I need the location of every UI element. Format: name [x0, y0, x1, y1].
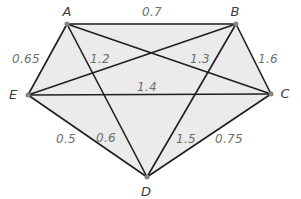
vertex-dot-A: [65, 22, 70, 27]
edge-weight-C-E: 1.4: [137, 80, 157, 94]
edge-weight-C-D: 0.75: [215, 132, 243, 146]
vertex-dot-D: [145, 175, 150, 180]
vertex-dot-E: [26, 93, 31, 98]
graph-canvas: 0.70.651.30.61.21.61.51.40.750.5ABCDE: [0, 0, 301, 199]
edge-weight-B-E: 1.2: [90, 52, 110, 66]
vertex-label-B: B: [231, 4, 240, 19]
edge-weight-A-C: 1.3: [190, 52, 210, 66]
vertex-dot-C: [269, 92, 274, 97]
edge-C-E: [28, 94, 271, 95]
edge-weight-B-D: 1.5: [176, 132, 196, 146]
edge-weight-D-E: 0.5: [56, 132, 76, 146]
edge-weight-A-B: 0.7: [142, 5, 162, 19]
edge-weight-B-C: 1.6: [258, 52, 278, 66]
vertex-dot-B: [234, 22, 239, 27]
pentagon-region-fill: [28, 24, 271, 177]
vertex-label-A: A: [62, 4, 72, 19]
vertex-label-E: E: [9, 87, 18, 102]
edge-weight-A-D: 0.6: [96, 131, 116, 145]
vertex-label-D: D: [141, 184, 151, 199]
vertex-label-C: C: [280, 86, 290, 101]
weighted-graph-figure: 0.70.651.30.61.21.61.51.40.750.5ABCDE: [0, 0, 301, 199]
edge-weight-A-E: 0.65: [12, 52, 40, 66]
